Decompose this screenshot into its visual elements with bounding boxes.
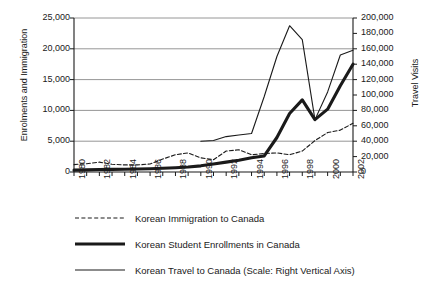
chart-legend: Korean Immigration to Canada Korean Stud…	[74, 205, 434, 283]
legend-label-travel: Korean Travel to Canada (Scale: Right Ve…	[135, 265, 355, 276]
legend-label-enrollments: Korean Student Enrollments in Canada	[135, 239, 300, 250]
gridlines	[74, 18, 353, 141]
series-line-dashed	[74, 123, 353, 165]
legend-item-immigration: Korean Immigration to Canada	[74, 205, 434, 231]
series-line-thin-solid	[201, 26, 353, 142]
chart-figure: Enrolments and Immigration Travel Visits…	[0, 0, 436, 286]
legend-swatch-thin-solid	[74, 264, 126, 276]
data-series-layer	[74, 26, 353, 170]
series-line-thick-solid	[74, 64, 353, 170]
legend-swatch-dashed	[74, 212, 126, 224]
legend-item-travel: Korean Travel to Canada (Scale: Right Ve…	[74, 257, 434, 283]
legend-label-immigration: Korean Immigration to Canada	[135, 213, 264, 224]
tick-marks	[70, 18, 357, 176]
legend-item-enrollments: Korean Student Enrollments in Canada	[74, 231, 434, 257]
legend-swatch-thick-solid	[74, 238, 126, 250]
